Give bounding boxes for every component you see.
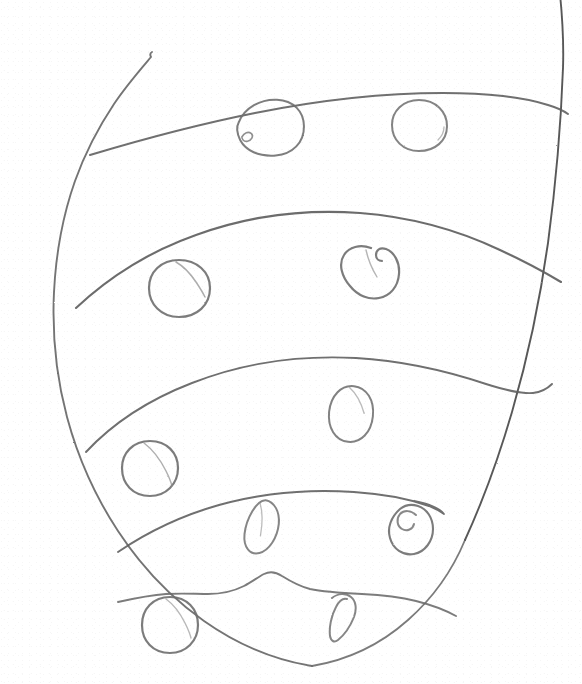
sketch-canvas: Pencil sketch of a segmented beetle body… <box>0 0 582 684</box>
pencil-sketch-drawing <box>0 0 582 684</box>
